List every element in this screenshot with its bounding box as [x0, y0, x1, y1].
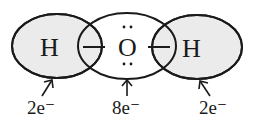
left-hydrogen-symbol: H [40, 33, 59, 62]
oxygen-symbol: O [118, 33, 137, 62]
water-molecule-diagram: H O H 2e⁻ 8e⁻ 2e⁻ [0, 0, 256, 124]
right-hydrogen-symbol: H [182, 34, 201, 63]
right-arrow-icon [199, 81, 210, 96]
right-hydrogen-electron-label: 2e⁻ [199, 97, 227, 118]
oxygen-electron-label: 8e⁻ [112, 97, 140, 118]
middle-arrow-icon [122, 80, 132, 96]
left-arrow-icon [42, 80, 53, 96]
left-hydrogen-electron-label: 2e⁻ [27, 97, 55, 118]
